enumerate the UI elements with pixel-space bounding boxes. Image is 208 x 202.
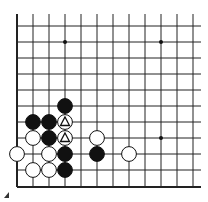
white-stone — [58, 115, 73, 130]
white-stone — [58, 131, 73, 146]
black-stone — [58, 99, 73, 114]
black-stone — [58, 163, 73, 178]
white-stone — [42, 163, 57, 178]
white-stone — [90, 131, 105, 146]
black-stone — [58, 147, 73, 162]
corner-mark-icon — [4, 192, 9, 198]
white-stone — [10, 147, 25, 162]
star-point — [159, 40, 163, 44]
black-stone — [42, 115, 57, 130]
star-point — [63, 40, 67, 44]
white-stone — [42, 147, 57, 162]
black-stone — [90, 147, 105, 162]
black-stone — [42, 131, 57, 146]
white-stone — [122, 147, 137, 162]
board-grid — [17, 14, 201, 187]
star-point — [159, 136, 163, 140]
black-stone — [26, 115, 41, 130]
white-stone — [26, 131, 41, 146]
go-board[interactable] — [0, 0, 208, 202]
white-stone — [26, 163, 41, 178]
